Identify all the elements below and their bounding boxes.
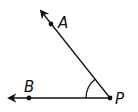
label-a: A (57, 14, 68, 32)
angle-arc (86, 79, 95, 98)
point-a-dot (49, 22, 54, 27)
vertex-p-dot (108, 96, 113, 101)
angle-svg: A B P (0, 0, 138, 112)
label-p: P (115, 90, 125, 108)
point-b-dot (27, 96, 32, 101)
angle-diagram: A B P (0, 0, 138, 112)
label-b: B (24, 78, 34, 96)
